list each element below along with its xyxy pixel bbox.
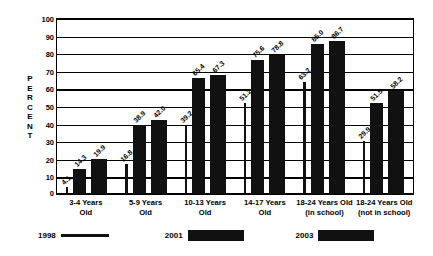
bar-group-3-4-years-old: 4.1 14.3 19.9 <box>57 19 116 194</box>
legend-label-1998: 1998 <box>38 231 56 240</box>
legend-item-1998[interactable]: 1998 <box>38 231 109 240</box>
bar-value-label: 38.9 <box>132 110 147 125</box>
bar-value-label: 14.3 <box>73 153 88 168</box>
chart-root: P E R C E N T 100 90 80 70 60 50 40 3 <box>0 0 433 256</box>
bar-2003[interactable]: 86.7 <box>329 41 345 195</box>
bar-value-label: 85.0 <box>310 28 325 43</box>
bar-1998[interactable]: 16.8 <box>125 164 127 194</box>
bar-value-label: 65.4 <box>191 63 206 78</box>
y-tick-label-60: 60 <box>46 85 54 94</box>
bar-value-label: 86.7 <box>330 25 345 40</box>
legend-swatch-2001 <box>188 230 244 241</box>
bar-value-label: 19.9 <box>92 143 107 158</box>
x-axis-label-10-13-years-old: 10-13 Years Old <box>175 198 235 217</box>
y-tick-label-10: 10 <box>46 173 54 182</box>
x-label-line: Old <box>235 208 295 218</box>
bar-value-label: 67.3 <box>211 59 226 74</box>
x-axis-label-18-24-years-old-not-in-school: 18-24 Years Old (not in school) <box>354 198 414 217</box>
x-label-line: 14-17 Years <box>235 198 295 208</box>
x-label-line: 10-13 Years <box>175 198 235 208</box>
y-axis-title-char: P <box>24 74 36 84</box>
bar-2001[interactable]: 85.0 <box>311 44 324 195</box>
bar-group-18-24-years-old-not-in-school: 29.9 51.5 58.2 <box>354 19 413 194</box>
y-axis-title-char: T <box>24 131 36 141</box>
y-tick-label-50: 50 <box>46 103 54 112</box>
bar-2003[interactable]: 42.0 <box>151 120 167 194</box>
x-axis-label-14-17-years-old: 14-17 Years Old <box>235 198 295 217</box>
legend-swatch-2003 <box>318 230 374 241</box>
y-axis-title-char: R <box>24 93 36 103</box>
x-label-line: 5-9 Years <box>116 198 176 208</box>
x-label-line: Old <box>116 208 176 218</box>
legend-label-2003: 2003 <box>296 231 314 240</box>
y-tick-label-0: 0 <box>50 188 54 197</box>
bar-2003[interactable]: 19.9 <box>91 159 107 194</box>
y-axis-title: P E R C E N T <box>24 74 36 141</box>
bar-1998[interactable]: 63.2 <box>303 82 305 194</box>
bar-2001[interactable]: 51.5 <box>370 103 383 194</box>
bar-value-label: 51.5 <box>369 87 384 102</box>
bar-group-5-9-years-old: 16.8 38.9 42.0 <box>116 19 175 194</box>
x-label-line: Old <box>175 208 235 218</box>
legend-item-2001[interactable]: 2001 <box>165 230 244 241</box>
bar-1998[interactable]: 51.2 <box>244 103 246 194</box>
bar-value-label: 58.2 <box>389 75 404 90</box>
x-label-line: (in school) <box>295 208 355 218</box>
y-axis-title-char: E <box>24 84 36 94</box>
x-axis-labels: 3-4 Years Old 5-9 Years Old 10-13 Years … <box>56 198 414 217</box>
bar-value-label: 42.0 <box>152 104 167 119</box>
chart-legend: 1998 2001 2003 <box>38 230 408 241</box>
x-axis-label-18-24-years-old-in-school: 18-24 Years Old (in school) <box>295 198 355 217</box>
bar-group-10-13-years-old: 39.2 65.4 67.3 <box>176 19 235 194</box>
bar-2001[interactable]: 14.3 <box>73 169 86 194</box>
bar-2003[interactable]: 58.2 <box>388 91 404 194</box>
bar-value-label: 75.6 <box>251 45 266 60</box>
bar-value-label: 78.8 <box>270 39 285 54</box>
legend-item-2003[interactable]: 2003 <box>296 230 375 241</box>
x-label-line: 3-4 Years <box>56 198 116 208</box>
bar-value-label: 4.1 <box>60 174 72 186</box>
y-tick-label-20: 20 <box>46 155 54 164</box>
x-axis-label-3-4-years-old: 3-4 Years Old <box>56 198 116 217</box>
bar-2001[interactable]: 65.4 <box>192 78 205 194</box>
legend-label-2001: 2001 <box>165 231 183 240</box>
y-tick-label-90: 90 <box>46 32 54 41</box>
bar-group-14-17-years-old: 51.2 75.6 78.8 <box>235 19 294 194</box>
y-tick-label-100: 100 <box>41 15 54 24</box>
x-axis-label-5-9-years-old: 5-9 Years Old <box>116 198 176 217</box>
x-label-line: Old <box>56 208 116 218</box>
x-label-line: 18-24 Years Old <box>354 198 414 208</box>
y-tick-label-30: 30 <box>46 138 54 147</box>
bar-1998[interactable]: 39.2 <box>185 125 187 194</box>
x-label-line: 18-24 Years Old <box>295 198 355 208</box>
bar-2003[interactable]: 67.3 <box>210 75 226 194</box>
plot-area: 100 90 80 70 60 50 40 30 20 10 0 <box>56 18 414 195</box>
y-axis-title-char: C <box>24 103 36 113</box>
x-label-line: (not in school) <box>354 208 414 218</box>
bar-2001[interactable]: 75.6 <box>251 60 264 194</box>
y-tick-label-80: 80 <box>46 50 54 59</box>
bar-1998[interactable]: 4.1 <box>66 187 68 194</box>
y-axis-title-char: N <box>24 122 36 132</box>
y-tick-label-70: 70 <box>46 67 54 76</box>
bar-1998[interactable]: 29.9 <box>363 141 365 194</box>
legend-swatch-1998 <box>61 234 109 236</box>
bar-2001[interactable]: 38.9 <box>133 125 146 194</box>
bar-group-18-24-years-old-in-school: 63.2 85.0 86.7 <box>294 19 353 194</box>
y-tick-label-40: 40 <box>46 120 54 129</box>
y-axis-title-char: E <box>24 112 36 122</box>
bar-groups: 4.1 14.3 19.9 16.8 38.9 42.0 <box>57 19 413 194</box>
bar-2003[interactable]: 78.8 <box>269 55 285 195</box>
